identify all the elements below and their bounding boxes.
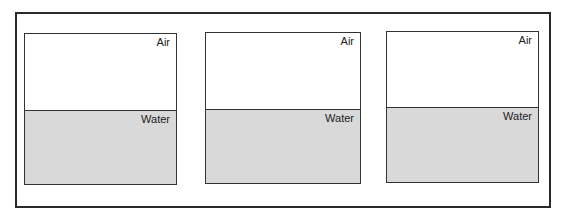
panel-2: Air Water [205, 32, 361, 184]
water-label: Water [325, 112, 354, 124]
air-region: Air [25, 34, 176, 111]
panel-3: Air Water [386, 31, 539, 183]
panel-1: Air Water [24, 33, 177, 185]
water-label: Water [503, 110, 532, 122]
air-region: Air [387, 32, 538, 108]
water-region: Water [206, 110, 360, 183]
air-region: Air [206, 33, 360, 110]
air-label: Air [341, 35, 354, 47]
air-label: Air [157, 36, 170, 48]
water-label: Water [141, 113, 170, 125]
air-label: Air [519, 34, 532, 46]
water-region: Water [25, 111, 176, 184]
water-region: Water [387, 108, 538, 182]
